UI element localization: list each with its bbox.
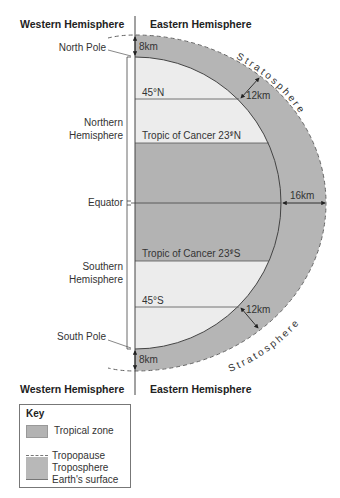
key-earth-surface: Earth's surface — [52, 474, 118, 486]
label-16km: 16km — [290, 190, 314, 201]
header-western-bottom: Western Hemisphere — [20, 383, 124, 395]
label-12km-south: 12km — [246, 304, 270, 315]
label-45n: 45°N — [142, 87, 164, 98]
label-south-pole: South Pole — [57, 331, 106, 342]
label-8km-north: 8km — [139, 41, 158, 52]
header-western-top: Western Hemisphere — [20, 18, 124, 30]
hemisphere-bracket — [127, 57, 131, 349]
label-tropic-n: Tropic of Cancer 231 °N — [142, 130, 241, 141]
header-eastern-bottom: Eastern Hemisphere — [150, 383, 252, 395]
tropopause-swatch — [26, 455, 48, 456]
header-eastern-top: Eastern Hemisphere — [150, 18, 252, 30]
key-troposphere: Troposphere — [52, 462, 108, 474]
label-northern-1: Northern — [84, 117, 123, 128]
tropical-zone — [135, 143, 285, 261]
label-equator: Equator — [88, 197, 124, 208]
tropical-zone-swatch — [26, 425, 48, 438]
label-southern-1: Southern — [82, 261, 123, 272]
troposphere-swatch — [26, 457, 48, 480]
key-tropical-zone: Tropical zone — [54, 425, 114, 436]
label-southern-2: Hemisphere — [69, 274, 123, 285]
key-legend: Key Tropical zone Tropopause Troposphere… — [19, 404, 131, 488]
south-pole-leader — [108, 340, 131, 348]
label-northern-2: Hemisphere — [69, 130, 123, 141]
north-pole-leader — [108, 50, 131, 56]
label-tropic-s: Tropic of Cancer 231 °S — [142, 248, 241, 259]
label-45s: 45°S — [142, 295, 164, 306]
label-north-pole: North Pole — [59, 42, 107, 53]
key-tropopause: Tropopause — [52, 450, 105, 462]
label-12km-north: 12km — [246, 90, 270, 101]
key-title: Key — [26, 408, 44, 419]
label-8km-south: 8km — [139, 354, 158, 365]
